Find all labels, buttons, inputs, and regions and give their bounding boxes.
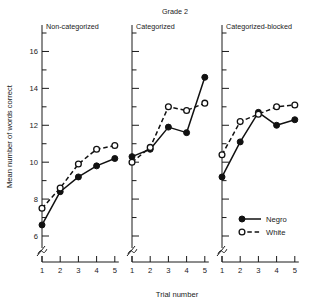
x-tick-label-p3-4: 4: [274, 266, 278, 275]
y-tick-label-8: 8: [34, 195, 38, 204]
data-point-white-p3-t3: [256, 111, 262, 117]
axis-break-slash-2: [127, 246, 135, 256]
data-point-negro-p1-t3: [75, 174, 81, 180]
data-point-white-p1-t1: [39, 205, 45, 211]
data-point-white-p1-t3: [76, 161, 82, 167]
data-point-negro-p3-t4: [274, 122, 280, 128]
series-line-negro-p1: [42, 158, 115, 224]
x-tick-label-p3-5: 5: [293, 266, 297, 275]
y-axis-label: Mean number of words correct: [5, 84, 14, 188]
panel-title-1: Non-categorized: [46, 22, 99, 31]
data-point-negro-p1-t5: [112, 155, 118, 161]
x-tick-label-p1-3: 3: [76, 266, 80, 275]
axis-break-slash-3: [217, 246, 225, 256]
x-tick-label-p1-5: 5: [113, 266, 117, 275]
x-tick-label-p3-2: 2: [238, 266, 242, 275]
x-tick-label-p3-3: 3: [256, 266, 260, 275]
data-point-white-p1-t4: [94, 146, 100, 152]
series-line-negro-p3: [222, 112, 295, 177]
data-point-negro-p3-t5: [292, 117, 298, 123]
y-tick-label-14: 14: [30, 84, 38, 93]
data-point-white-p2-t4: [184, 108, 190, 114]
data-point-white-p1-t5: [112, 143, 118, 149]
y-tick-label-12: 12: [30, 121, 38, 130]
data-point-white-p2-t1: [129, 159, 135, 165]
legend-marker-white: [239, 229, 245, 235]
y-tick-label-10: 10: [30, 158, 38, 167]
data-point-white-p1-t2: [57, 185, 63, 191]
figure-title: Grade 2: [162, 7, 188, 16]
data-point-negro-p2-t3: [165, 124, 171, 130]
x-tick-label-p3-1: 1: [220, 266, 224, 275]
data-point-negro-p1-t1: [39, 222, 45, 228]
y-tick-label-16: 16: [30, 47, 38, 56]
chart-canvas: Grade 2Mean number of words correctTrial…: [0, 0, 319, 303]
x-tick-label-p2-5: 5: [203, 266, 207, 275]
series-line-negro-p2: [132, 77, 205, 156]
axis-break-slash-1: [37, 246, 45, 256]
legend-label-white: White: [266, 228, 285, 237]
x-tick-label-p2-2: 2: [148, 266, 152, 275]
x-tick-label-p1-4: 4: [94, 266, 98, 275]
data-point-white-p3-t1: [219, 152, 225, 158]
legend-label-negro: Negro: [266, 215, 287, 224]
y-tick-label-6: 6: [34, 232, 38, 241]
x-tick-label-p2-3: 3: [166, 266, 170, 275]
legend-marker-negro: [239, 216, 245, 222]
data-point-white-p2-t5: [202, 100, 208, 106]
data-point-white-p3-t4: [274, 104, 280, 110]
x-tick-label-p1-1: 1: [40, 266, 44, 275]
data-point-negro-p3-t1: [219, 174, 225, 180]
panel-title-2: Categorized: [136, 22, 175, 31]
panel-title-3: Categorized-blocked: [226, 22, 292, 31]
data-point-negro-p2-t4: [184, 130, 190, 136]
x-tick-label-p2-1: 1: [130, 266, 134, 275]
x-tick-label-p1-2: 2: [58, 266, 62, 275]
data-point-negro-p2-t5: [202, 74, 208, 80]
data-point-negro-p3-t2: [237, 139, 243, 145]
x-tick-label-p2-4: 4: [184, 266, 188, 275]
figure: Grade 2Mean number of words correctTrial…: [0, 0, 319, 303]
data-point-white-p3-t5: [292, 102, 298, 108]
data-point-white-p2-t2: [147, 145, 153, 151]
x-axis-label: Trial number: [156, 290, 199, 299]
data-point-negro-p1-t4: [94, 163, 100, 169]
data-point-white-p3-t2: [237, 119, 243, 125]
data-point-white-p2-t3: [166, 104, 172, 110]
